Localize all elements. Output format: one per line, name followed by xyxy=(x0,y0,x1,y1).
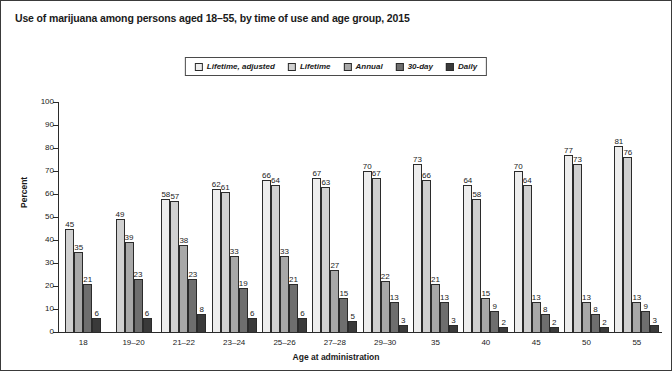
bar-slot: 2 xyxy=(600,102,609,332)
y-tick-label: 90 xyxy=(45,120,54,129)
bar[interactable]: 13 xyxy=(390,302,399,332)
y-tick-label: 60 xyxy=(45,189,54,198)
legend-swatch-icon xyxy=(344,63,352,71)
bar[interactable]: 21 xyxy=(289,284,298,332)
legend-item-2[interactable]: Annual xyxy=(344,62,383,71)
bar[interactable]: 2 xyxy=(600,327,609,332)
bar[interactable]: 70 xyxy=(363,171,372,332)
bar[interactable]: 61 xyxy=(221,192,230,332)
bar-slot: 33 xyxy=(230,102,239,332)
bar[interactable]: 66 xyxy=(422,180,431,332)
x-tick-label: 27–28 xyxy=(324,338,346,347)
bar[interactable]: 6 xyxy=(248,318,257,332)
bar[interactable]: 64 xyxy=(271,185,280,332)
bar[interactable]: 33 xyxy=(230,256,239,332)
bar[interactable]: 67 xyxy=(312,178,321,332)
chart-figure: Use of marijuana among persons aged 18–5… xyxy=(0,0,672,371)
bar-value-label: 45 xyxy=(65,221,74,229)
bar[interactable]: 21 xyxy=(431,284,440,332)
bar-slot: 64 xyxy=(271,102,280,332)
y-tick-label: 70 xyxy=(45,166,54,175)
x-tick-label: 18 xyxy=(79,338,88,347)
bar-slot: 9 xyxy=(641,102,650,332)
bar-slot: 8 xyxy=(591,102,600,332)
bar-slot: 6 xyxy=(248,102,257,332)
bar[interactable]: 45 xyxy=(65,229,74,333)
bar-slot: 61 xyxy=(221,102,230,332)
bar[interactable]: 38 xyxy=(179,245,188,332)
bar[interactable]: 58 xyxy=(161,199,170,332)
bar[interactable]: 57 xyxy=(170,201,179,332)
bar[interactable]: 22 xyxy=(381,281,390,332)
bar[interactable]: 73 xyxy=(573,164,582,332)
bar[interactable]: 13 xyxy=(632,302,641,332)
bar[interactable]: 39 xyxy=(125,242,134,332)
bar[interactable]: 64 xyxy=(463,185,472,332)
bar[interactable]: 9 xyxy=(641,311,650,332)
bar[interactable]: 13 xyxy=(440,302,449,332)
legend-item-label: Annual xyxy=(356,62,383,71)
bar-value-label: 8 xyxy=(200,306,204,314)
bar-value-label: 2 xyxy=(552,319,556,327)
y-tick-label: 100 xyxy=(41,97,54,106)
bar[interactable]: 13 xyxy=(582,302,591,332)
bar[interactable]: 5 xyxy=(348,321,357,333)
bar-value-label: 13 xyxy=(532,294,541,302)
bar-slot: 70 xyxy=(514,102,523,332)
bar[interactable]: 6 xyxy=(92,318,101,332)
bar-value-label: 67 xyxy=(372,170,381,178)
bar[interactable]: 35 xyxy=(74,252,83,333)
legend-item-4[interactable]: Daily xyxy=(446,62,477,71)
bar[interactable]: 66 xyxy=(262,180,271,332)
bar[interactable]: 76 xyxy=(623,157,632,332)
legend-swatch-icon xyxy=(288,63,296,71)
bar[interactable]: 8 xyxy=(591,314,600,332)
x-tick-label: 40 xyxy=(481,338,490,347)
bar[interactable]: 23 xyxy=(188,279,197,332)
bar[interactable]: 49 xyxy=(116,219,125,332)
bar[interactable]: 19 xyxy=(239,288,248,332)
bar[interactable]: 58 xyxy=(472,199,481,332)
bar-value-label: 81 xyxy=(614,138,623,146)
bar[interactable]: 27 xyxy=(330,270,339,332)
bar[interactable]: 13 xyxy=(532,302,541,332)
bar[interactable]: 77 xyxy=(564,155,573,332)
legend-item-0[interactable]: Lifetime, adjusted xyxy=(195,62,275,71)
bar-slot: 45 xyxy=(65,102,74,332)
legend-item-3[interactable]: 30-day xyxy=(396,62,433,71)
bar-value-label: 6 xyxy=(145,310,149,318)
bar[interactable]: 21 xyxy=(83,284,92,332)
bar[interactable]: 3 xyxy=(399,325,408,332)
bar[interactable]: 2 xyxy=(499,327,508,332)
bar-slot: 3 xyxy=(449,102,458,332)
bar[interactable]: 6 xyxy=(143,318,152,332)
bar[interactable]: 63 xyxy=(321,187,330,332)
bar[interactable]: 62 xyxy=(212,189,221,332)
bar-slot: 62 xyxy=(212,102,221,332)
bar[interactable]: 15 xyxy=(481,298,490,333)
bar[interactable]: 81 xyxy=(614,146,623,332)
bar[interactable]: 73 xyxy=(413,164,422,332)
bar-value-label: 13 xyxy=(632,294,641,302)
bar[interactable]: 15 xyxy=(339,298,348,333)
bar[interactable]: 67 xyxy=(372,178,381,332)
bar[interactable]: 8 xyxy=(197,314,206,332)
bar[interactable]: 23 xyxy=(134,279,143,332)
bar[interactable]: 33 xyxy=(280,256,289,332)
bar-value-label: 63 xyxy=(321,179,330,187)
bar-slot: 66 xyxy=(422,102,431,332)
bar[interactable]: 2 xyxy=(550,327,559,332)
bar-group: 736621133 xyxy=(413,102,458,332)
bar[interactable]: 8 xyxy=(541,314,550,332)
bar[interactable]: 70 xyxy=(514,171,523,332)
bar[interactable]: 64 xyxy=(523,185,532,332)
bar[interactable]: 6 xyxy=(298,318,307,332)
bar[interactable]: 3 xyxy=(650,325,659,332)
legend-swatch-icon xyxy=(396,63,404,71)
bar-slot: 76 xyxy=(623,102,632,332)
bar[interactable]: 3 xyxy=(449,325,458,332)
bar-slot: 13 xyxy=(440,102,449,332)
legend-item-1[interactable]: Lifetime xyxy=(288,62,331,71)
x-tick-label: 19–20 xyxy=(122,338,144,347)
bar[interactable]: 9 xyxy=(490,311,499,332)
